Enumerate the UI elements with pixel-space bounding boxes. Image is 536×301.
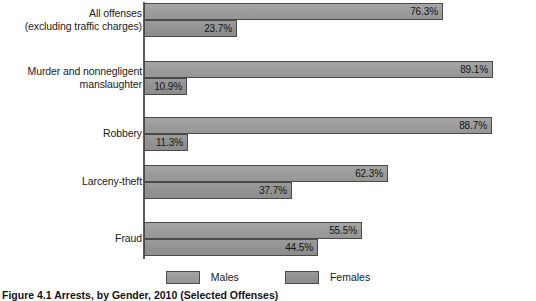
bar-females: 37.7%	[144, 182, 292, 199]
category-group-robbery: Robbery 88.7% 11.3%	[0, 117, 536, 151]
category-label: All offenses (excluding traffic charges)	[4, 7, 142, 32]
figure-caption: Figure 4.1 Arrests, by Gender, 2010 (Sel…	[2, 289, 536, 301]
category-group-murder: Murder and nonnegligent manslaughter 89.…	[0, 61, 536, 95]
bar-value-label: 55.5%	[329, 225, 361, 236]
bar-females: 44.5%	[144, 239, 318, 256]
bar-females: 10.9%	[144, 78, 187, 95]
category-group-all-offenses: All offenses (excluding traffic charges)…	[0, 3, 536, 37]
category-label: Murder and nonnegligent manslaughter	[4, 65, 142, 90]
category-label: Larceny-theft	[4, 175, 142, 188]
legend-label-females: Females	[330, 271, 370, 283]
legend-label-males: Males	[211, 271, 239, 283]
category-group-fraud: Fraud 55.5% 44.5%	[0, 222, 536, 256]
bar-value-label: 76.3%	[410, 6, 442, 17]
bar-males: 76.3%	[144, 3, 443, 20]
legend-item-males: Males	[166, 271, 239, 284]
bar-females: 23.7%	[144, 20, 237, 37]
bar-males: 62.3%	[144, 165, 388, 182]
bar-value-label: 88.7%	[459, 120, 491, 131]
bar-females: 11.3%	[144, 134, 188, 151]
legend-swatch-males-icon	[166, 271, 200, 284]
bar-value-label: 10.9%	[154, 81, 186, 92]
bar-males: 55.5%	[144, 222, 362, 239]
bar-males: 89.1%	[144, 61, 493, 78]
plot-area: All offenses (excluding traffic charges)…	[0, 0, 536, 262]
legend-swatch-females-icon	[285, 271, 319, 284]
category-group-larceny-theft: Larceny-theft 62.3% 37.7%	[0, 165, 536, 199]
bar-value-label: 37.7%	[259, 185, 291, 196]
chart-legend: Males Females	[0, 268, 536, 286]
bar-value-label: 89.1%	[460, 64, 492, 75]
bar-value-label: 62.3%	[355, 168, 387, 179]
bar-value-label: 11.3%	[156, 137, 187, 148]
bar-value-label: 23.7%	[204, 23, 236, 34]
legend-item-females: Females	[285, 271, 370, 284]
bar-value-label: 44.5%	[285, 242, 317, 253]
category-label: Robbery	[4, 127, 142, 140]
category-label: Fraud	[4, 232, 142, 245]
bar-males: 88.7%	[144, 117, 492, 134]
